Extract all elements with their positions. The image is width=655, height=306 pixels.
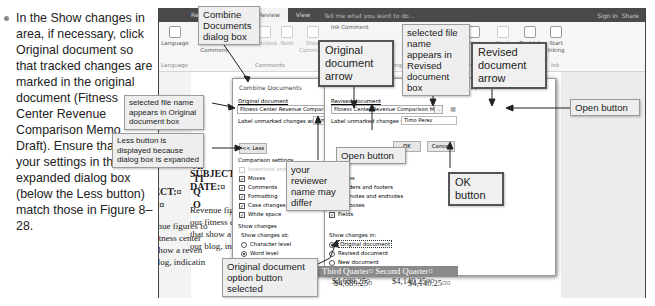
restrict-editing-icon [524,26,536,38]
callout-combine-dialog: Combine Documents dialog box [198,6,260,45]
callout-selected-revised: selected file name appears in Revised do… [402,24,470,96]
word-level-radio[interactable]: Word level [241,250,278,257]
start-inking-button[interactable]: Start Inking [545,26,567,54]
less-button[interactable]: << Less [239,143,267,154]
subject-label: SUBJECT:¤ [158,186,182,197]
language-button[interactable]: Language [161,26,189,47]
callout-original-arrow: Original document arrow [318,40,394,87]
case-changes-checkbox[interactable]: ✓Case changes [239,202,286,209]
callout-revised-arrow: Revised document arrow [471,42,547,89]
original-document-label: Original document [238,98,288,104]
moves-checkbox[interactable]: ✓Moves [239,175,265,182]
tab-view[interactable]: View [288,8,318,22]
table-header-overlay: Third Quarter¤ Second Quarter¤ [318,266,458,277]
bullet-icon [4,16,9,21]
formatting-checkbox[interactable]: ✓Formatting [239,193,277,200]
dialog-title-text: Combine Documents [239,84,302,91]
revised-open-button[interactable]: ■ [449,105,457,113]
second-quarter-amount: $4,140.25¤¤ [408,278,451,288]
callout-original-option: Original document option button selected [222,258,318,297]
group-label-ink: Ink [551,62,559,68]
revised-reviewer-input[interactable]: Timo Perez [401,116,457,125]
show-comments-icon [307,26,319,38]
callout-selected-original: selected file name appears in Original d… [124,95,204,130]
next-comment-button[interactable]: Next [277,26,297,47]
group-label-language: Language [161,62,188,68]
previous-icon [259,26,271,38]
new-document-radio[interactable]: New document [329,259,379,266]
tell-me-box[interactable]: Tell me what you want to do... [324,12,414,19]
show-changes-in-label: Show changes in: [329,232,376,238]
ink-comment-button[interactable]: Ink Comment [331,24,371,31]
sign-in-link[interactable]: Sign in [597,12,621,19]
block-authors-icon [497,26,509,38]
body-line-4: our blog, indicatin [158,257,205,267]
callout-ok-button: OK button [448,172,504,206]
cancel-button[interactable]: Cancel [427,141,455,152]
revised-document-arrow[interactable]: ⌵ [434,106,442,113]
revised-document-select[interactable]: Fitness Center Revenue Comparison Memo w… [331,105,443,114]
callout-less-button: Less button is displayed because dialog … [112,133,204,168]
third-quarter-amount: $4,689.25¤ [334,278,372,288]
revised-document-radio[interactable]: Revised document [329,250,388,257]
date-label-page: DATE:¤ [190,181,225,192]
group-label-comments: Comments [255,62,285,68]
callout-open-button-right: Open button [570,99,640,116]
date-label: DATE:¤ [158,199,164,210]
callout-reviewer: your reviewer name may differ [286,161,350,211]
label-unmarked-original: Label unmarked changes with: [238,118,321,124]
share-button[interactable]: Share [622,12,645,19]
fields-checkbox[interactable]: ✓Fields [329,211,353,218]
revised-document-label: Revised document [331,98,381,104]
white-space-checkbox[interactable]: ✓White space [239,211,281,218]
language-icon [169,26,181,38]
next-icon [281,26,293,38]
dialog-revised-panel: ? × Revised document Fitness Center Reve… [324,78,556,276]
character-level-radio[interactable]: Character level [241,241,291,248]
pen-icon [550,26,562,38]
show-changes-at-label: Show changes at: [241,232,289,238]
original-document-radio[interactable]: Original document [329,241,392,248]
show-changes-label: Show changes [238,223,277,229]
comments-checkbox[interactable]: ✓Comments [239,184,277,191]
